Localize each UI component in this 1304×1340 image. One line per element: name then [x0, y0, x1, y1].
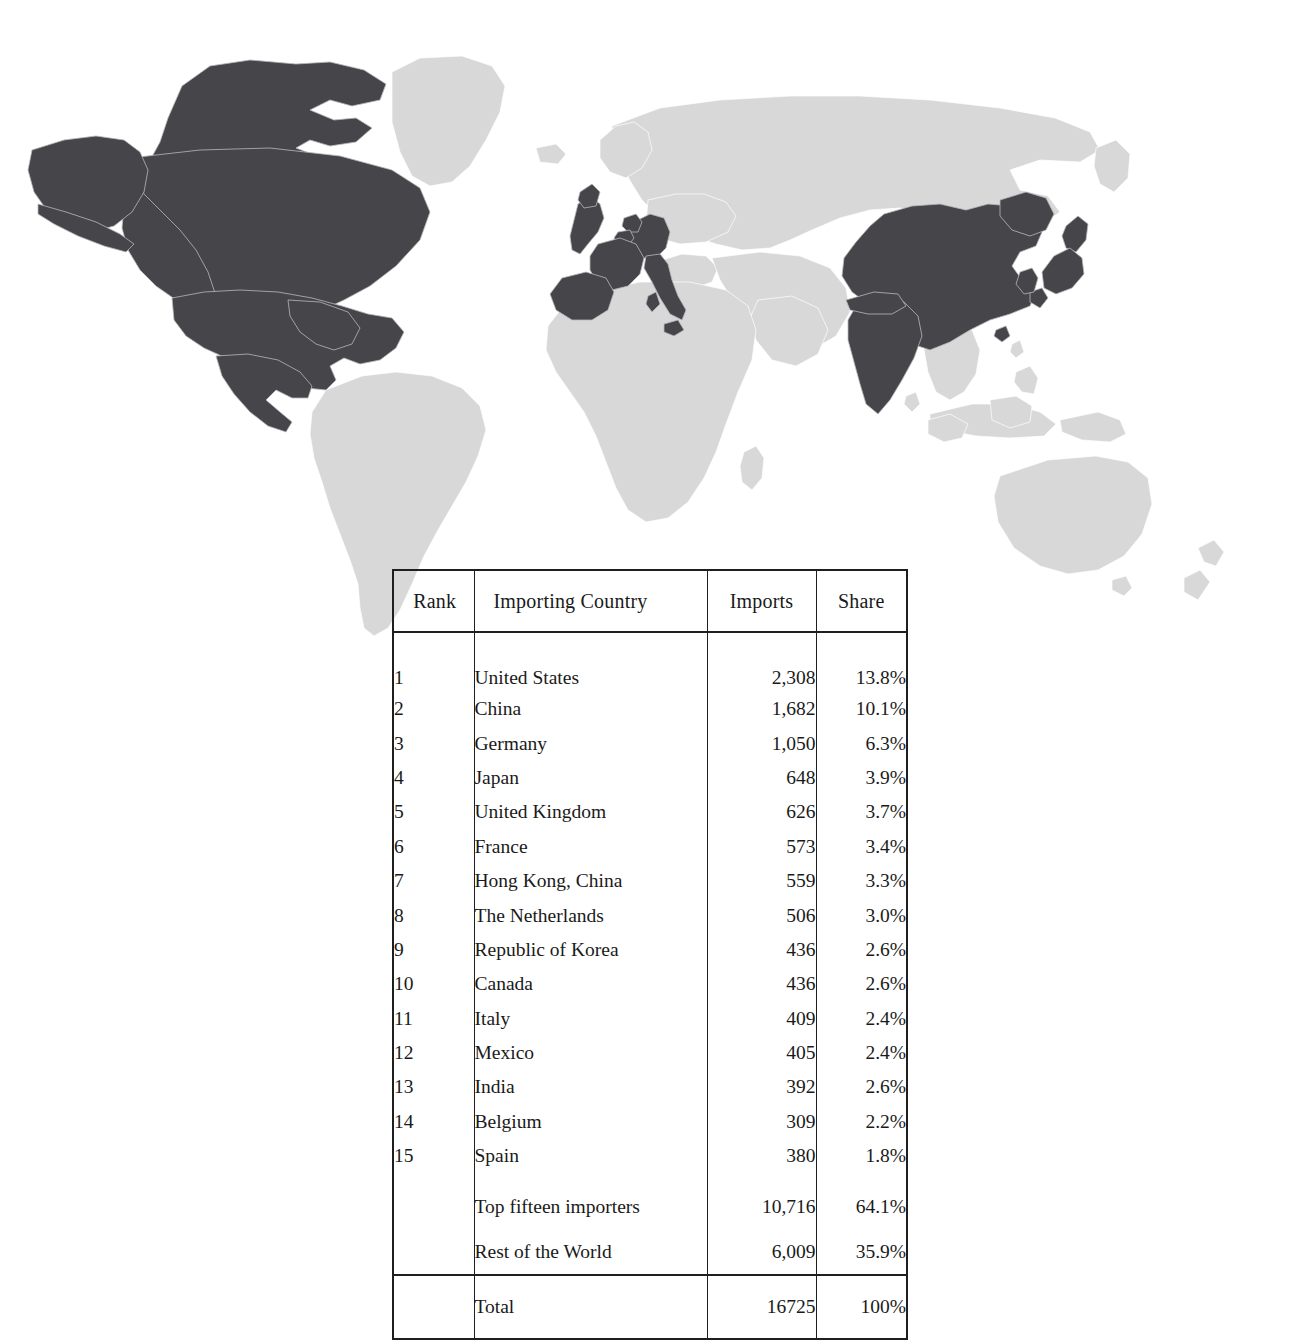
table-row[interactable]: 10Canada4362.6%	[393, 967, 907, 1001]
cell-country: Japan	[474, 761, 707, 795]
cell-share: 3.0%	[816, 898, 907, 932]
cell-country: France	[474, 830, 707, 864]
table-row[interactable]: 9Republic of Korea4362.6%	[393, 933, 907, 967]
table-header: Rank Importing Country Imports Share	[393, 570, 907, 632]
table-body: 1United States2,30813.8%2China1,68210.1%…	[393, 632, 907, 1339]
cell-imports: 1,050	[707, 726, 816, 760]
cell-imports: 6,009	[707, 1229, 816, 1275]
cell-rank: 11	[393, 1002, 474, 1036]
table-row[interactable]: 7Hong Kong, China5593.3%	[393, 864, 907, 898]
cell-country: Belgium	[474, 1105, 707, 1139]
table-row[interactable]: 5United Kingdom6263.7%	[393, 795, 907, 829]
cell-share: 3.3%	[816, 864, 907, 898]
table-row[interactable]: 12Mexico4052.4%	[393, 1036, 907, 1070]
cell-country: Rest of the World	[474, 1229, 707, 1275]
column-header-rank[interactable]: Rank	[393, 570, 474, 632]
cell-country: Hong Kong, China	[474, 864, 707, 898]
cell-imports: 409	[707, 1002, 816, 1036]
cell-share: 13.8%	[816, 632, 907, 692]
table-row[interactable]: 8The Netherlands5063.0%	[393, 898, 907, 932]
table-row[interactable]: 13India3922.6%	[393, 1070, 907, 1104]
cell-imports: 405	[707, 1036, 816, 1070]
cell-country: India	[474, 1070, 707, 1104]
cell-country: Mexico	[474, 1036, 707, 1070]
cell-share: 2.4%	[816, 1002, 907, 1036]
cell-imports: 626	[707, 795, 816, 829]
cell-imports: 506	[707, 898, 816, 932]
top-importers-table: Rank Importing Country Imports Share 1Un…	[392, 569, 908, 1340]
cell-share: 10.1%	[816, 692, 907, 726]
cell-imports: 1,682	[707, 692, 816, 726]
table-total-row[interactable]: Total16725100%	[393, 1275, 907, 1339]
cell-imports: 2,308	[707, 632, 816, 692]
cell-share: 3.9%	[816, 761, 907, 795]
cell-country: Total	[474, 1275, 707, 1339]
table-row[interactable]: 15Spain3801.8%	[393, 1139, 907, 1173]
cell-rank: 12	[393, 1036, 474, 1070]
table-summary-row[interactable]: Rest of the World6,00935.9%	[393, 1229, 907, 1275]
cell-share: 2.6%	[816, 967, 907, 1001]
cell-country: The Netherlands	[474, 898, 707, 932]
cell-imports: 392	[707, 1070, 816, 1104]
cell-rank: 4	[393, 761, 474, 795]
cell-share: 3.4%	[816, 830, 907, 864]
cell-rank: 9	[393, 933, 474, 967]
cell-share: 1.8%	[816, 1139, 907, 1173]
table-row[interactable]: 2China1,68210.1%	[393, 692, 907, 726]
table-row[interactable]: 11Italy4092.4%	[393, 1002, 907, 1036]
table-row[interactable]: 14Belgium3092.2%	[393, 1105, 907, 1139]
cell-share: 100%	[816, 1275, 907, 1339]
cell-rank: 15	[393, 1139, 474, 1173]
cell-rank: 5	[393, 795, 474, 829]
table-row[interactable]: 6France5733.4%	[393, 830, 907, 864]
cell-rank: 8	[393, 898, 474, 932]
cell-share: 2.6%	[816, 1070, 907, 1104]
cell-imports: 573	[707, 830, 816, 864]
cell-country: United States	[474, 632, 707, 692]
cell-rank: 1	[393, 632, 474, 692]
table-row[interactable]: 3Germany1,0506.3%	[393, 726, 907, 760]
column-header-imports[interactable]: Imports	[707, 570, 816, 632]
cell-share: 64.1%	[816, 1173, 907, 1229]
column-header-share[interactable]: Share	[816, 570, 907, 632]
column-header-country[interactable]: Importing Country	[474, 570, 707, 632]
cell-imports: 648	[707, 761, 816, 795]
cell-rank: 14	[393, 1105, 474, 1139]
cell-country: United Kingdom	[474, 795, 707, 829]
table-row[interactable]: 4Japan6483.9%	[393, 761, 907, 795]
cell-share: 3.7%	[816, 795, 907, 829]
cell-imports: 436	[707, 933, 816, 967]
cell-country: Republic of Korea	[474, 933, 707, 967]
cell-share: 35.9%	[816, 1229, 907, 1275]
cell-rank: 10	[393, 967, 474, 1001]
cell-imports: 309	[707, 1105, 816, 1139]
cell-rank	[393, 1173, 474, 1229]
cell-country: Germany	[474, 726, 707, 760]
cell-imports: 16725	[707, 1275, 816, 1339]
cell-rank: 2	[393, 692, 474, 726]
cell-imports: 436	[707, 967, 816, 1001]
cell-rank: 3	[393, 726, 474, 760]
cell-rank: 7	[393, 864, 474, 898]
cell-share: 2.4%	[816, 1036, 907, 1070]
table-header-row: Rank Importing Country Imports Share	[393, 570, 907, 632]
cell-country: Canada	[474, 967, 707, 1001]
cell-rank	[393, 1275, 474, 1339]
cell-country: Spain	[474, 1139, 707, 1173]
cell-rank: 13	[393, 1070, 474, 1104]
importers-table-container: Rank Importing Country Imports Share 1Un…	[392, 569, 906, 1340]
cell-rank	[393, 1229, 474, 1275]
cell-country: Italy	[474, 1002, 707, 1036]
cell-imports: 10,716	[707, 1173, 816, 1229]
table-summary-row[interactable]: Top fifteen importers10,71664.1%	[393, 1173, 907, 1229]
table-row[interactable]: 1United States2,30813.8%	[393, 632, 907, 692]
cell-country: China	[474, 692, 707, 726]
cell-share: 6.3%	[816, 726, 907, 760]
cell-rank: 6	[393, 830, 474, 864]
cell-imports: 380	[707, 1139, 816, 1173]
cell-share: 2.6%	[816, 933, 907, 967]
cell-imports: 559	[707, 864, 816, 898]
cell-share: 2.2%	[816, 1105, 907, 1139]
cell-country: Top fifteen importers	[474, 1173, 707, 1229]
